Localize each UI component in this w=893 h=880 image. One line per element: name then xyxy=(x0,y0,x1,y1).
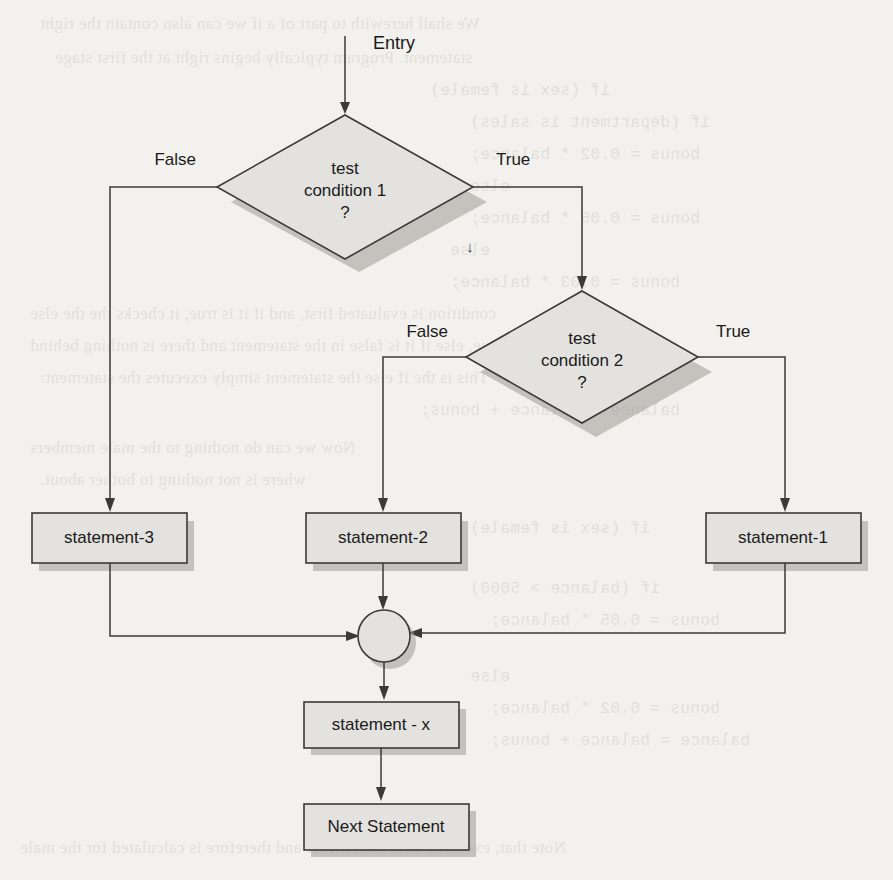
statement-x-label: statement - x xyxy=(332,715,431,734)
decision-2-true-line xyxy=(698,357,785,500)
statement-3-to-merge-edge xyxy=(110,563,360,641)
decision-2-line1: test xyxy=(568,329,596,348)
decision-1-false-line xyxy=(110,187,217,500)
statement-x-next-arrowhead xyxy=(376,787,386,801)
entry-arrowhead xyxy=(340,102,350,114)
stray-mark: ↓ xyxy=(466,238,474,255)
flowchart-svg: Entry test condition 1 ? False True ↓ te… xyxy=(0,0,893,880)
decision-2-false-edge xyxy=(378,357,466,512)
merge-junction-shape[interactable] xyxy=(358,610,410,662)
entry-arrow-group xyxy=(340,36,350,114)
decision-1-line3: ? xyxy=(340,203,349,222)
next-statement-label: Next Statement xyxy=(327,817,444,836)
decision-1-true-line xyxy=(473,187,582,278)
decision-1-line2: condition 1 xyxy=(304,181,386,200)
process-statement-1[interactable]: statement-1 xyxy=(706,513,868,571)
entry-label: Entry xyxy=(373,33,415,53)
decision-2-line3: ? xyxy=(577,373,586,392)
decision-2-true-label: True xyxy=(716,322,750,341)
statement-1-label: statement-1 xyxy=(738,528,828,547)
statement-3-merge-line xyxy=(110,563,348,636)
decision-1-line1: test xyxy=(331,159,359,178)
merge-junction[interactable] xyxy=(358,610,416,669)
flowchart-page: We shall herewith to part of a if we can… xyxy=(0,0,893,880)
statement-x-to-next-edge xyxy=(376,748,386,801)
decision-1-true-edge xyxy=(473,187,587,290)
decision-2-false-label: False xyxy=(406,322,448,341)
decision-2-true-arrowhead xyxy=(780,498,790,512)
statement-1-to-merge-edge xyxy=(408,563,785,638)
decision-1-false-label: False xyxy=(154,150,196,169)
decision-1-false-edge xyxy=(105,187,217,512)
decision-1-true-arrowhead xyxy=(577,276,587,290)
statement-1-merge-line xyxy=(420,563,785,633)
decision-2-true-edge xyxy=(698,357,790,512)
process-next-statement[interactable]: Next Statement xyxy=(304,804,476,857)
process-statement-x[interactable]: statement - x xyxy=(304,702,466,755)
merge-statement-x-arrowhead xyxy=(379,686,389,700)
decision-1-true-label: True xyxy=(496,150,530,169)
process-statement-2[interactable]: statement-2 xyxy=(306,513,468,571)
decision-2-line2: condition 2 xyxy=(541,351,623,370)
decision-2-false-line xyxy=(383,357,466,500)
decision-test-condition-1[interactable]: test condition 1 ? xyxy=(217,115,487,272)
statement-3-label: statement-3 xyxy=(64,528,154,547)
decision-2-false-arrowhead xyxy=(378,498,388,512)
statement-2-merge-arrowhead xyxy=(378,596,388,610)
process-statement-3[interactable]: statement-3 xyxy=(32,513,194,571)
statement-2-label: statement-2 xyxy=(338,528,428,547)
decision-1-false-arrowhead xyxy=(105,498,115,512)
decision-test-condition-2[interactable]: test condition 2 ? xyxy=(466,291,712,437)
